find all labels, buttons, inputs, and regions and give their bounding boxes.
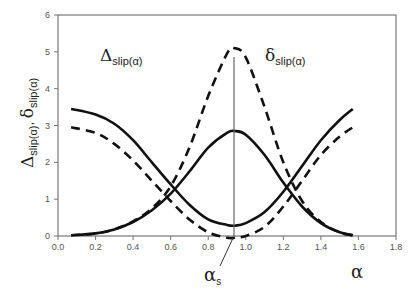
y-axis-title: Δslip(α), δslip(α) [17,78,39,168]
x-axis-title: α [351,261,363,282]
x-tick-label: 0.4 [127,242,140,252]
x-tick-label: 0.0 [52,242,65,252]
delta-small-label: δslip(α) [265,45,305,67]
y-tick-label: 0 [45,231,50,241]
series-line-2 [71,131,353,236]
plot-annotations: Δslip(α) δslip(α) αs α Δslip(α), δslip(α… [17,45,363,287]
x-tick-label: 1.6 [352,242,365,252]
x-tick-label: 1.8 [390,242,403,252]
plot-series [71,48,353,239]
x-tick-label: 0.6 [164,242,177,252]
y-tick-label: 6 [45,10,50,20]
alpha-s-label: αs [204,264,221,287]
x-tick-label: 1.0 [240,242,253,252]
y-tick-label: 3 [45,121,50,131]
chart: 0.00.20.40.60.81.01.21.41.61.80123456 Δs… [0,0,413,299]
x-tick-label: 1.2 [277,242,290,252]
delta-cap-label: Δslip(α) [100,45,142,67]
y-tick-label: 5 [45,47,50,57]
x-tick-label: 0.8 [202,242,215,252]
y-tick-label: 4 [45,84,50,94]
series-line-0 [71,109,353,226]
x-tick-label: 0.2 [89,242,102,252]
x-tick-label: 1.4 [315,242,328,252]
y-tick-label: 2 [45,157,50,167]
alpha-s-pointer-line [220,238,233,266]
series-line-3 [71,48,353,236]
y-tick-label: 1 [45,194,50,204]
